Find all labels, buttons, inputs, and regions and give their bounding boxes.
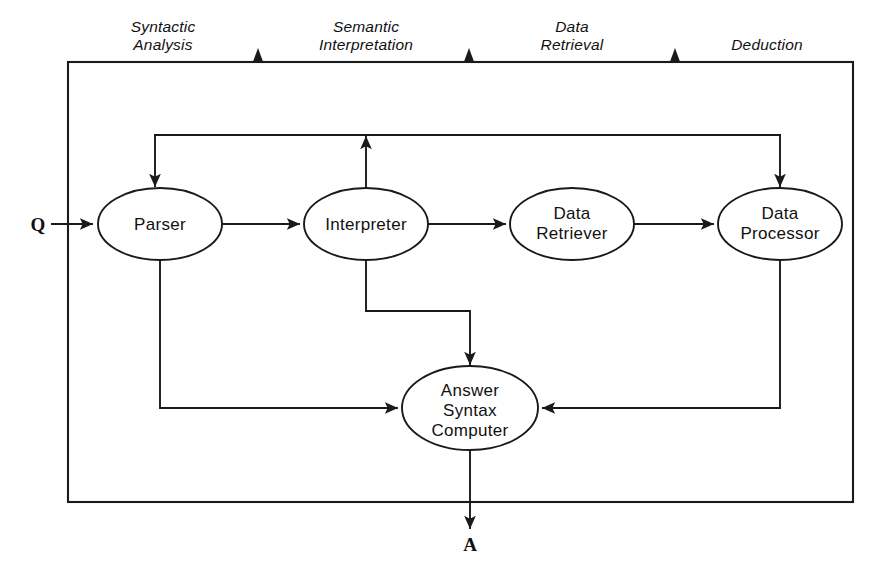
stage-label-syntactic-analysis: Syntactic Analysis	[131, 18, 196, 53]
node-parser[interactable]: Parser	[98, 188, 222, 260]
stage-label-line-2: Retrieval	[541, 36, 604, 53]
stage-divider-marker-3	[670, 48, 681, 63]
node-data-retriever-label-line-1: Data	[553, 204, 590, 223]
block-diagram: Syntactic Analysis Semantic Interpretati…	[0, 0, 888, 584]
node-data-processor-label-line-2: Processor	[740, 224, 819, 243]
node-answer-syntax-computer[interactable]: Answer Syntax Computer	[402, 366, 538, 450]
node-answer-syntax-computer-label-line-2: Syntax	[443, 401, 497, 420]
stage-label-line-2: Interpretation	[319, 36, 413, 53]
node-parser-label: Parser	[134, 215, 186, 234]
node-interpreter-label: Interpreter	[325, 215, 407, 234]
question-input-label: Q	[31, 214, 46, 235]
edge-data-processor-to-answer-syntax-computer	[543, 258, 780, 408]
diagram-canvas: Syntactic Analysis Semantic Interpretati…	[0, 0, 888, 584]
edge-parser-to-answer-syntax-computer	[160, 258, 397, 408]
stage-divider-marker-2	[464, 48, 475, 63]
node-data-retriever[interactable]: Data Retriever	[510, 188, 634, 260]
stage-label-semantic-interpretation: Semantic Interpretation	[319, 18, 413, 53]
node-answer-syntax-computer-label-line-1: Answer	[441, 381, 500, 400]
node-data-retriever-label-line-2: Retriever	[536, 224, 608, 243]
stage-label-line-1: Syntactic	[131, 18, 196, 35]
stage-label-line-1: Data	[555, 18, 589, 35]
node-answer-syntax-computer-label-line-3: Computer	[431, 421, 508, 440]
answer-output-label: A	[463, 534, 477, 555]
node-data-processor[interactable]: Data Processor	[718, 188, 842, 260]
stage-label-deduction: Deduction	[731, 36, 803, 53]
stage-label-data-retrieval: Data Retrieval	[541, 18, 604, 53]
node-interpreter[interactable]: Interpreter	[304, 188, 428, 260]
stage-divider-marker-1	[253, 48, 264, 63]
node-data-processor-label-line-1: Data	[761, 204, 798, 223]
stage-label-line-2: Analysis	[132, 36, 192, 53]
stage-label-line-1: Semantic	[333, 18, 399, 35]
stage-label-line-1: Deduction	[731, 36, 803, 53]
edge-interpreter-to-answer-syntax-computer	[366, 258, 470, 364]
